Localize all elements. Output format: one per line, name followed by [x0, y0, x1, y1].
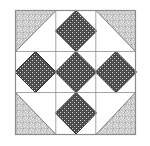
- quilt-block-figure: Quilt Block Diagram Nine-patch quilt blo…: [0, 0, 150, 146]
- quilt-block-diagram: Quilt Block Diagram Nine-patch quilt blo…: [0, 0, 150, 146]
